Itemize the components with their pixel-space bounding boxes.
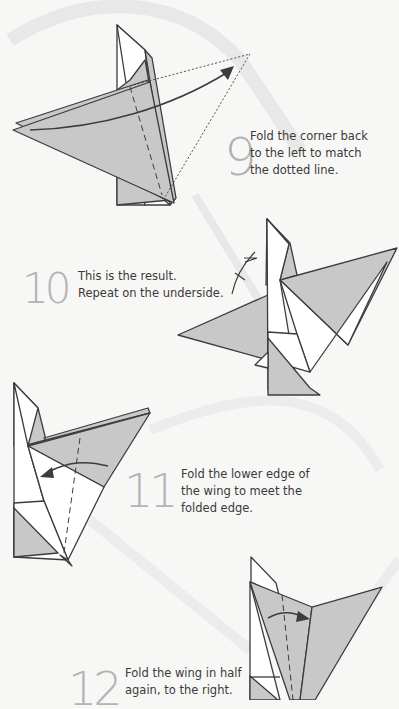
step-10-line: This is the result.: [78, 268, 224, 285]
step-10-line: Repeat on the underside.: [78, 285, 224, 302]
step-9-line: the dotted line.: [250, 162, 368, 179]
step-11-line: Fold the lower edge of: [181, 466, 310, 483]
step-number-12: 12: [68, 666, 119, 709]
step-11-line: folded edge.: [181, 500, 310, 517]
step-9-line: to the left to match: [250, 145, 368, 162]
step-9-instructions: Fold the corner back to the left to matc…: [250, 128, 368, 179]
step-9-line: Fold the corner back: [250, 128, 368, 145]
step-12-instructions: Fold the wing in half again, to the righ…: [125, 665, 241, 699]
step-number-11: 11: [124, 468, 175, 514]
step-11-line: the wing to meet the: [181, 483, 310, 500]
step-number-9: 9: [224, 131, 253, 183]
step-11-instructions: Fold the lower edge of the wing to meet …: [181, 466, 310, 517]
step-12-line: again, to the right.: [125, 682, 241, 699]
step-10-instructions: This is the result. Repeat on the unders…: [78, 268, 224, 302]
step-number-10: 10: [22, 268, 67, 310]
step-12-line: Fold the wing in half: [125, 665, 241, 682]
